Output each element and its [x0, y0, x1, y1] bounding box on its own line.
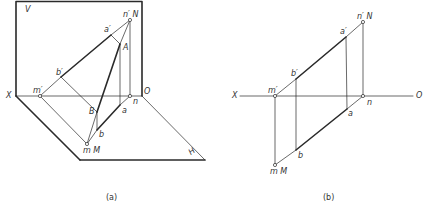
- line-b-a-h-b: [296, 109, 347, 150]
- label-B: B: [89, 108, 95, 116]
- label-v-plane: V: [25, 6, 30, 14]
- label-m-prime-a: m′: [33, 87, 43, 95]
- label-x-axis-a: X: [6, 92, 11, 100]
- label-a-b: a: [348, 110, 353, 118]
- projector-a-b: [346, 37, 347, 109]
- line-B-M: [87, 112, 97, 144]
- h-plane-left-edge: [16, 96, 80, 160]
- line-b-prime-a-prime-b: [296, 37, 346, 79]
- label-o-b: O: [416, 92, 422, 100]
- label-m-prime-b: m′: [268, 87, 278, 95]
- line-m-prime-b-prime-a: [40, 77, 61, 96]
- label-mM-a: m M: [83, 147, 100, 155]
- label-b-prime-b: b′: [291, 70, 298, 78]
- line-b-m-h: [87, 130, 97, 144]
- line-m-prime-b-prime-b: [275, 79, 296, 96]
- label-n-b: n: [367, 99, 372, 107]
- label-a-prime-a: a′: [104, 26, 111, 34]
- point-n-a: [128, 94, 131, 97]
- line-a-n-h-b: [347, 96, 363, 109]
- label-b-b: b: [298, 152, 303, 160]
- h-plane-right-edge: [142, 96, 205, 160]
- label-a-a: a: [122, 107, 127, 115]
- label-b-prime-a: b′: [56, 69, 63, 77]
- label-A: A: [123, 44, 128, 52]
- projection-drawing: [0, 0, 427, 213]
- line-a-prime-n-prime-b: [346, 22, 363, 37]
- projector-m-prime-mM: [40, 96, 87, 144]
- line-n-a-h: [120, 96, 130, 105]
- label-a-prime-b: a′: [340, 28, 347, 36]
- label-b-a: b: [99, 131, 104, 139]
- caption-a: (a): [106, 194, 117, 202]
- line-A-B: [97, 44, 120, 112]
- point-n-b: [361, 94, 364, 97]
- label-x-axis-b: X: [232, 92, 237, 100]
- projector-a-prime-A: [111, 35, 120, 44]
- projection-figure: V H X O n′ N a′ A b′ m′ n a B b m M (a) …: [0, 0, 427, 213]
- label-n-a: n: [133, 98, 138, 106]
- line-a-prime-b-prime-a: [61, 35, 111, 77]
- label-n-prime-N-b: n′ N: [357, 13, 372, 21]
- label-o-a: O: [144, 88, 150, 96]
- label-mM-b: m M: [270, 168, 287, 176]
- label-n-prime-N-a: n′ N: [123, 11, 138, 19]
- line-a-b-h: [97, 105, 120, 130]
- line-m-b-h-b: [275, 150, 296, 165]
- caption-b: (b): [323, 194, 334, 202]
